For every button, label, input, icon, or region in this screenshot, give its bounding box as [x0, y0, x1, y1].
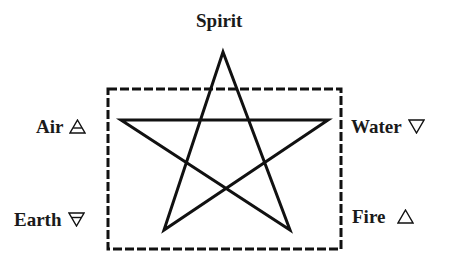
dashed-frame [108, 89, 341, 249]
air-triangle-icon [69, 119, 86, 134]
air-label: Air [36, 116, 63, 137]
pentagram-diagram: Spirit Air Water Earth Fire [0, 0, 449, 270]
spirit-label: Spirit [196, 10, 242, 31]
water-triangle-icon [408, 119, 425, 134]
fire-triangle-icon [397, 209, 414, 224]
earth-label: Earth [14, 209, 62, 230]
water-label: Water [351, 116, 402, 137]
label-water: Water [351, 117, 425, 136]
label-fire: Fire [352, 207, 414, 226]
label-spirit: Spirit [196, 11, 242, 30]
earth-triangle-icon [68, 212, 85, 227]
fire-label: Fire [352, 206, 385, 227]
label-air: Air [36, 117, 86, 136]
label-earth: Earth [14, 210, 85, 229]
pentagram-star [121, 52, 328, 230]
